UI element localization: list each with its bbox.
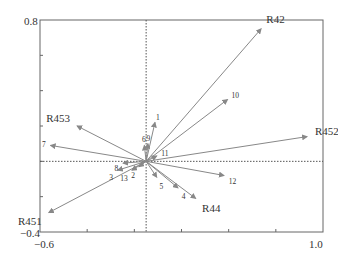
vectors: R42R452R453R451R4412345678910111213 bbox=[18, 13, 338, 228]
environment-label: R42 bbox=[266, 13, 284, 25]
species-label: 11 bbox=[161, 149, 168, 158]
species-label: 4 bbox=[182, 192, 186, 201]
x-max-label: 1.0 bbox=[309, 238, 323, 250]
species-label: 3 bbox=[109, 173, 113, 182]
species-label: 9 bbox=[147, 134, 151, 143]
environment-label: R453 bbox=[46, 112, 70, 124]
species-label: 2 bbox=[131, 171, 135, 180]
vector-arrow bbox=[49, 161, 146, 212]
species-label: 7 bbox=[42, 140, 46, 149]
species-label: 1 bbox=[156, 113, 160, 122]
species-label: 10 bbox=[231, 91, 239, 100]
vector-arrow bbox=[146, 137, 307, 162]
species-label: 8 bbox=[114, 164, 118, 173]
species-label: 13 bbox=[120, 174, 128, 183]
axis-ticks bbox=[40, 55, 276, 232]
y-max-label: 0.8 bbox=[24, 15, 38, 27]
vector-arrow bbox=[146, 100, 227, 162]
environment-label: R44 bbox=[202, 202, 221, 214]
environment-label: R451 bbox=[18, 215, 42, 227]
x-min-label: −0.6 bbox=[34, 238, 54, 250]
species-label: 12 bbox=[229, 177, 237, 186]
vector-arrow bbox=[51, 145, 147, 161]
vector-arrow bbox=[146, 29, 261, 162]
biplot-chart: R42R452R453R451R4412345678910111213 0.8 … bbox=[0, 0, 338, 265]
vector-arrow bbox=[146, 161, 224, 175]
environment-label: R452 bbox=[315, 125, 338, 137]
species-label: 5 bbox=[160, 182, 164, 191]
species-label: 6 bbox=[142, 135, 146, 144]
